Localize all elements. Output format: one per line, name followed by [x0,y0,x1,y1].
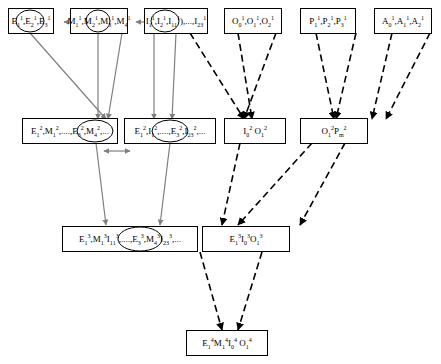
ellipse-ei2 [152,120,188,142]
ellipse-i1 [151,10,179,32]
ellipse-e1 [16,10,44,32]
diagram-canvas: E11,E21,E31 M11,M21,M31,M41 I11,I21,I111… [0,0,441,364]
ellipse-emi3 [118,227,162,251]
ellipse-em2 [77,120,113,142]
ellipse-m1 [86,10,110,32]
ellipse-annotation-layer [0,0,441,364]
